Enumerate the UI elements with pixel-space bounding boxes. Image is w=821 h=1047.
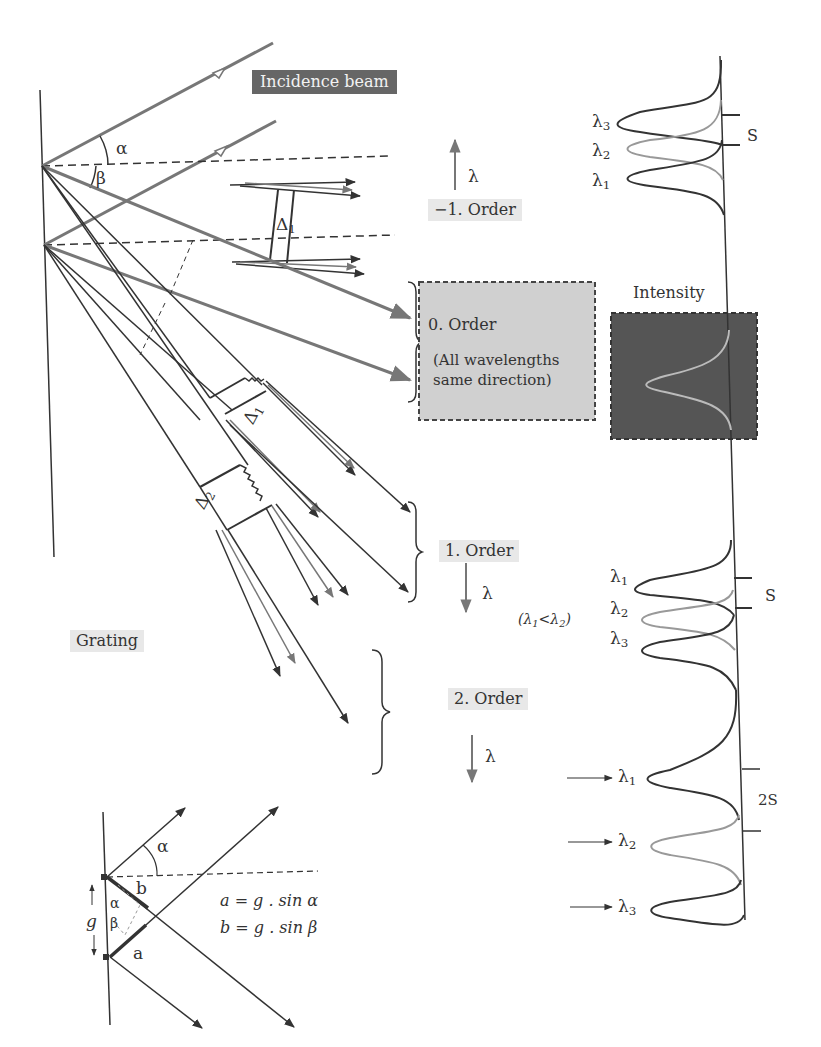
lambda-down-1-label: λ xyxy=(482,585,493,602)
delta1-label: Δ1 xyxy=(276,216,296,236)
order-2-label: 2. Order xyxy=(448,688,528,710)
order-0-note: (All wavelengths same direction) xyxy=(433,350,583,391)
incidence-beam-2 xyxy=(44,121,276,245)
spec-m1-l1: λ1 xyxy=(592,172,610,192)
alpha-label: α xyxy=(116,140,127,157)
zero-order-beam-2 xyxy=(44,245,410,380)
s-label-mid: S xyxy=(765,588,776,604)
spec-1-l3: λ3 xyxy=(610,630,628,650)
lambda-up-label: λ xyxy=(468,168,479,185)
2s-label: 2S xyxy=(758,793,778,808)
spec-2-l2: λ2 xyxy=(618,832,636,852)
intensity-label: Intensity xyxy=(633,285,705,301)
inset-alpha: α xyxy=(157,838,168,855)
order-minus1-label: −1. Order xyxy=(428,199,522,221)
spec-m1-l3: λ3 xyxy=(592,113,610,133)
incidence-beam-label: Incidence beam xyxy=(252,70,397,94)
intensity-axis xyxy=(720,56,745,920)
intensity-box xyxy=(611,313,757,439)
equation-b: b = g . sin β xyxy=(220,920,317,936)
spec-m1-l2: λ2 xyxy=(592,142,610,162)
incidence-beam-1 xyxy=(42,43,273,166)
beta-label: β xyxy=(96,170,106,187)
inset-a: a xyxy=(133,945,143,962)
lambda-down-2-label: λ xyxy=(485,748,496,765)
order-1-label: 1. Order xyxy=(439,540,519,562)
spec-1-l1: λ1 xyxy=(610,568,628,588)
inset-alpha-small: α xyxy=(110,896,119,910)
spec-2-l3: λ3 xyxy=(618,898,636,918)
inset-beta-small: β xyxy=(110,916,118,930)
spec-2-l1: λ1 xyxy=(618,768,636,788)
spec-1-l2: λ2 xyxy=(610,600,628,620)
brace-order-2 xyxy=(372,650,390,774)
order-0-label: 0. Order xyxy=(428,317,496,333)
brace-order-1 xyxy=(408,502,422,602)
grating-label: Grating xyxy=(70,630,144,652)
lambda-relation: (λ1<λ2) xyxy=(518,612,571,629)
inset-b: b xyxy=(136,880,147,897)
equation-a: a = g . sin α xyxy=(220,893,318,909)
inset-g: g xyxy=(86,913,97,930)
s-label-top: S xyxy=(747,128,758,144)
